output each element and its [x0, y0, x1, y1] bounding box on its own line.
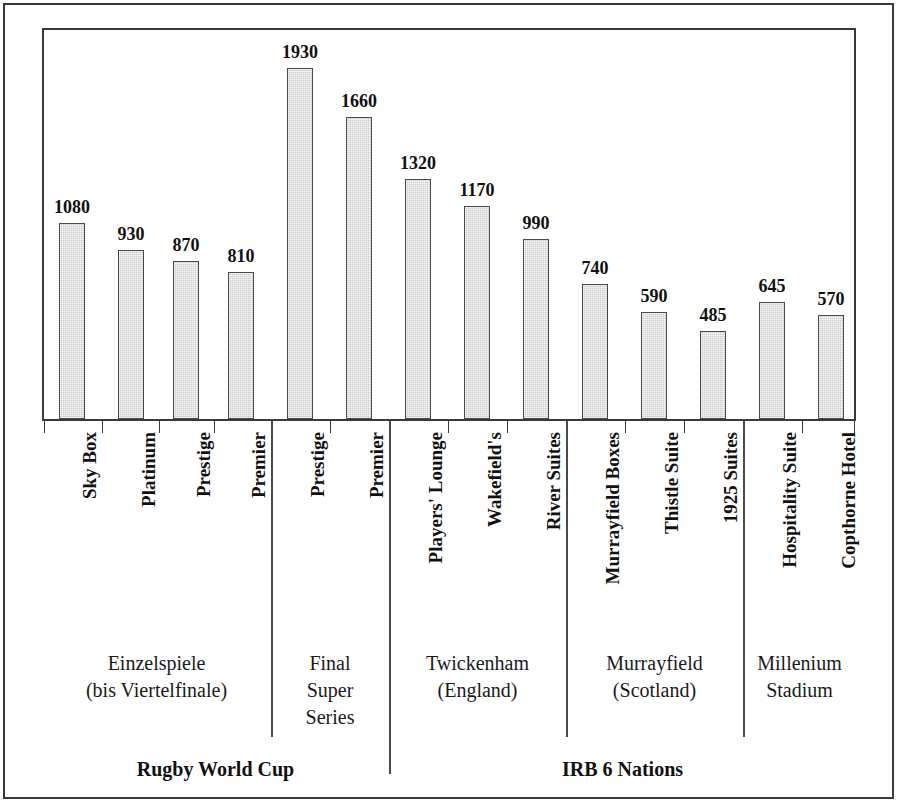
group-label: Einzelspiele (bis Viertelfinale) — [42, 650, 271, 704]
category-label: Prestige — [193, 432, 215, 497]
bar-value-label: 740 — [555, 258, 635, 279]
category-label: Thistle Suite — [661, 432, 683, 534]
bar — [287, 68, 313, 419]
bar-value-label: 810 — [201, 246, 281, 267]
category-label: Copthorne Hotel — [838, 432, 860, 569]
category-label: Players' Lounge — [425, 432, 447, 563]
bar — [523, 239, 549, 419]
category-label: Prestige — [307, 432, 329, 497]
group-label: Millenium Stadium — [743, 650, 856, 704]
bar — [228, 272, 254, 419]
axis-tick — [102, 421, 103, 433]
supergroup-label: IRB 6 Nations — [389, 758, 856, 781]
group-label: Murrayfield (Scotland) — [566, 650, 743, 704]
category-label: Wakefield's — [484, 432, 506, 527]
bar — [118, 250, 144, 419]
bar — [700, 331, 726, 419]
axis-tick — [159, 421, 160, 433]
bars-layer: 1080Sky Box930Platinum870Prestige810Prem… — [0, 0, 900, 805]
axis-tick — [330, 421, 331, 433]
bar-value-label: 1930 — [260, 42, 340, 63]
bar-value-label: 485 — [673, 305, 753, 326]
axis-tick — [507, 421, 508, 433]
supergroup-label: Rugby World Cup — [42, 758, 389, 781]
bar — [405, 179, 431, 419]
group-label: Final Super Series — [271, 650, 389, 731]
axis-tick — [448, 421, 449, 433]
bar — [173, 261, 199, 419]
category-label: Premier — [366, 432, 388, 498]
bar-value-label: 570 — [791, 289, 871, 310]
bar — [759, 302, 785, 419]
category-label: Sky Box — [79, 432, 101, 499]
axis-tick — [802, 421, 803, 433]
category-label: Hospitality Suite — [779, 432, 801, 568]
bar-value-label: 590 — [614, 286, 694, 307]
axis-tick — [44, 421, 45, 433]
category-label: River Suites — [543, 432, 565, 530]
axis-tick — [625, 421, 626, 433]
bar-value-label: 1320 — [378, 153, 458, 174]
category-label: Murrayfield Boxes — [602, 432, 624, 585]
axis-tick — [684, 421, 685, 433]
bar — [59, 223, 85, 419]
category-label: Premier — [248, 432, 270, 498]
bar — [641, 312, 667, 419]
chart-figure: 1080Sky Box930Platinum870Prestige810Prem… — [0, 0, 900, 805]
bar-value-label: 990 — [496, 213, 576, 234]
category-label: Platinum — [138, 432, 160, 507]
axis-tick — [854, 421, 855, 433]
bar-value-label: 1080 — [32, 197, 112, 218]
bar — [818, 315, 844, 419]
bar — [464, 206, 490, 419]
supergroup-divider — [389, 421, 391, 774]
bar — [582, 284, 608, 419]
bar-value-label: 1170 — [437, 180, 517, 201]
bar — [346, 117, 372, 419]
bar-value-label: 1660 — [319, 91, 399, 112]
category-label: 1925 Suites — [720, 432, 742, 523]
axis-tick — [214, 421, 215, 433]
group-label: Twickenham (England) — [389, 650, 566, 704]
